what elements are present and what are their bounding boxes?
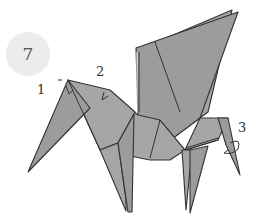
- hind-leg-bent: [218, 118, 240, 175]
- hind-leg-right: [190, 146, 208, 213]
- label-2: 2: [96, 64, 104, 79]
- origami-pegasus-figure: [0, 0, 260, 224]
- label-3: 3: [238, 120, 246, 135]
- label-1: 1: [37, 82, 45, 97]
